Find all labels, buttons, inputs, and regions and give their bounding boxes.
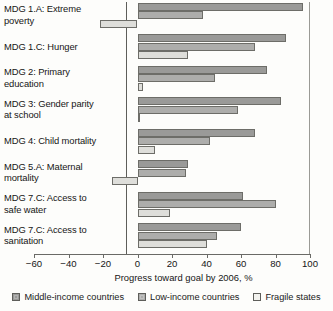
bar-chart: MDG 1.A: ExtremepovertyMDG 1.C: HungerMD… [0, 0, 333, 311]
bar [138, 169, 186, 177]
bar [138, 66, 267, 74]
legend-swatch-icon [253, 293, 261, 301]
x-axis-tick-label: 0 [135, 258, 140, 269]
bar [138, 232, 217, 240]
x-axis-tick-label: −20 [95, 258, 111, 269]
bar [138, 160, 188, 168]
bar [138, 34, 286, 42]
bar [138, 51, 188, 59]
x-axis-tick-label: 100 [302, 258, 318, 269]
legend-swatch-icon [12, 293, 20, 301]
bar [138, 192, 243, 200]
x-axis-tick-label: 80 [270, 258, 281, 269]
bar [138, 200, 276, 208]
legend-label: Low-income countries [150, 292, 239, 302]
legend-swatch-icon [138, 293, 146, 301]
bar [138, 114, 140, 122]
zero-reference-line [126, 2, 127, 254]
x-axis-tick-label: 20 [167, 258, 178, 269]
legend-label: Fragile states [265, 292, 320, 302]
bar [138, 3, 304, 11]
chart-legend: Middle-income countriesLow-income countr… [0, 292, 333, 302]
legend-item: Fragile states [253, 292, 320, 302]
bar [138, 129, 255, 137]
x-axis-tick-label: −60 [26, 258, 42, 269]
x-axis-tick-label: −40 [60, 258, 76, 269]
bar [138, 240, 207, 248]
bar [138, 223, 242, 231]
bar [100, 20, 138, 28]
x-axis-tick-label: 40 [201, 258, 212, 269]
legend-item: Middle-income countries [12, 292, 124, 302]
legend-item: Low-income countries [138, 292, 239, 302]
bar [138, 209, 171, 217]
bar [138, 11, 204, 19]
bar [138, 106, 238, 114]
bar [138, 97, 281, 105]
legend-label: Middle-income countries [24, 292, 124, 302]
x-axis-title: Progress toward goal by 2006, % [0, 272, 333, 283]
bar [138, 137, 210, 145]
bar [138, 146, 155, 154]
x-axis-tick-label: 60 [236, 258, 247, 269]
bar [138, 43, 255, 51]
bar [112, 177, 138, 185]
plot-area [34, 2, 310, 254]
bar [138, 74, 216, 82]
bar [138, 83, 143, 91]
